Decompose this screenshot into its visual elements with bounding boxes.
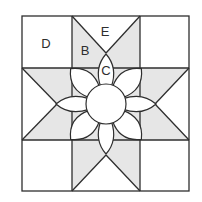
label-c: C [101,63,110,78]
label-b: B [81,43,90,58]
label-d: D [41,36,50,51]
label-e: E [101,24,110,39]
center-circle [86,84,126,124]
quilt-block-diagram: D B E C [0,0,202,202]
quilt-block-svg: D B E C [0,0,202,202]
